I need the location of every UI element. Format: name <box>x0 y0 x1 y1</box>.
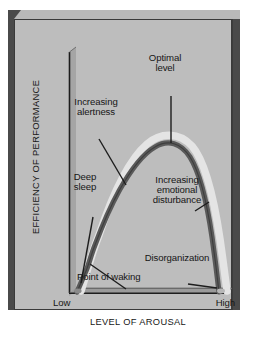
annotation-increasing-emotional-disturbance: Increasing emotional disturbance <box>138 175 216 205</box>
annotation-point-of-waking: Point of waking <box>77 272 173 282</box>
annotation-deep-sleep: Deep sleep <box>62 172 108 192</box>
leader-disorganization <box>188 284 217 288</box>
x-axis-title: LEVEL OF AROUSAL <box>53 318 223 328</box>
x-axis-slab <box>69 288 232 293</box>
curve-left-base-marker <box>74 289 81 294</box>
panel-3d-top-bevel <box>14 10 240 19</box>
y-axis-title: EFFICIENCY OF PERFORMANCE <box>32 72 42 242</box>
figure-root: Optimal level Increasing alertness Deep … <box>0 0 253 339</box>
x-tick-label-high: High <box>195 298 235 308</box>
curve-highlight-band <box>81 135 227 291</box>
annotation-disorganization: Disorganization <box>134 253 220 263</box>
curve-right-base-marker <box>217 289 225 294</box>
annotation-increasing-alertness: Increasing alertness <box>58 97 134 117</box>
chart-panel: Optimal level Increasing alertness Deep … <box>14 19 232 310</box>
annotation-optimal-level: Optimal level <box>132 53 198 73</box>
x-tick-label-low: Low <box>53 298 93 308</box>
